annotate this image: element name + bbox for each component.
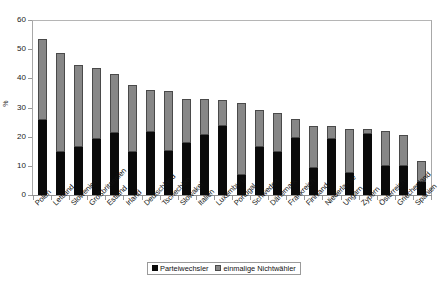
- y-axis-tick: 10: [0, 166, 32, 167]
- bar-group[interactable]: [146, 90, 155, 195]
- y-axis-tick-label: 0: [21, 189, 26, 200]
- legend-label: einmalige Nichtwähler: [223, 264, 295, 273]
- bar-segment-einmalige-nichtwaehler: [110, 74, 119, 133]
- bar-segment-parteiwechsler: [363, 134, 372, 195]
- x-axis-tick-mark: [431, 196, 432, 200]
- y-axis-tick-label: 30: [17, 102, 26, 113]
- bar-segment-einmalige-nichtwaehler: [399, 135, 408, 166]
- bar-group[interactable]: [200, 99, 209, 195]
- y-axis-tick-mark: [28, 137, 32, 138]
- bar-segment-einmalige-nichtwaehler: [345, 129, 354, 173]
- y-axis-tick-mark: [28, 49, 32, 50]
- y-axis-tick-label: 60: [17, 14, 26, 25]
- y-axis-tick: 50: [0, 49, 32, 50]
- y-axis-tick-label: 50: [17, 43, 26, 54]
- chart-figure: % 0102030405060 PolenLettlandSlowenienGr…: [0, 0, 438, 283]
- bar-segment-einmalige-nichtwaehler: [38, 39, 47, 120]
- bar-segment-einmalige-nichtwaehler: [237, 103, 246, 174]
- bar-segment-einmalige-nichtwaehler: [218, 100, 227, 127]
- bar-segment-einmalige-nichtwaehler: [255, 110, 264, 148]
- bar-group[interactable]: [38, 39, 47, 195]
- bar-segment-einmalige-nichtwaehler: [273, 113, 282, 153]
- bar-segment-einmalige-nichtwaehler: [291, 119, 300, 138]
- bar-segment-einmalige-nichtwaehler: [146, 90, 155, 132]
- bar-group[interactable]: [56, 53, 65, 195]
- y-axis-tick: 40: [0, 78, 32, 79]
- bar-segment-einmalige-nichtwaehler: [74, 65, 83, 147]
- bar-segment-parteiwechsler: [218, 126, 227, 195]
- bar-group[interactable]: [128, 85, 137, 195]
- bar-group[interactable]: [218, 100, 227, 195]
- bar-segment-parteiwechsler: [146, 132, 155, 195]
- bar-group[interactable]: [381, 131, 390, 195]
- bar-segment-einmalige-nichtwaehler: [128, 85, 137, 152]
- bar-group[interactable]: [255, 110, 264, 195]
- legend-swatch-icon: [152, 265, 158, 271]
- bar-group[interactable]: [74, 65, 83, 195]
- legend-swatch-icon: [215, 265, 221, 271]
- bar-segment-einmalige-nichtwaehler: [309, 126, 318, 168]
- legend-item-parteiwechsler: Parteiwechsler: [152, 264, 208, 273]
- legend-label: Parteiwechsler: [160, 264, 208, 273]
- y-axis-tick-mark: [28, 78, 32, 79]
- bar-segment-einmalige-nichtwaehler: [56, 53, 65, 151]
- bar-segment-parteiwechsler: [38, 120, 47, 195]
- chart-legend: Parteiwechsler einmalige Nichtwähler: [147, 262, 301, 275]
- bar-segment-einmalige-nichtwaehler: [164, 91, 173, 151]
- y-axis-tick-label: 20: [17, 131, 26, 142]
- y-axis-tick-label: 10: [17, 160, 26, 171]
- y-axis-tick-label: 40: [17, 72, 26, 83]
- y-axis-tick-mark: [28, 108, 32, 109]
- y-axis-tick: 20: [0, 137, 32, 138]
- bar-segment-einmalige-nichtwaehler: [381, 131, 390, 165]
- legend-item-einmalige-nichtwaehler: einmalige Nichtwähler: [215, 264, 295, 273]
- y-axis-tick: 60: [0, 20, 32, 21]
- y-axis-tick-mark: [28, 166, 32, 167]
- bar-segment-einmalige-nichtwaehler: [182, 99, 191, 143]
- bar-segment-einmalige-nichtwaehler: [200, 99, 209, 135]
- y-axis-tick-mark: [28, 20, 32, 21]
- y-axis-tick: 30: [0, 108, 32, 109]
- y-axis-tick: 0: [0, 195, 32, 196]
- bars-layer: [33, 20, 431, 195]
- bar-segment-einmalige-nichtwaehler: [92, 68, 101, 139]
- bar-segment-einmalige-nichtwaehler: [327, 126, 336, 139]
- bar-group[interactable]: [363, 129, 372, 195]
